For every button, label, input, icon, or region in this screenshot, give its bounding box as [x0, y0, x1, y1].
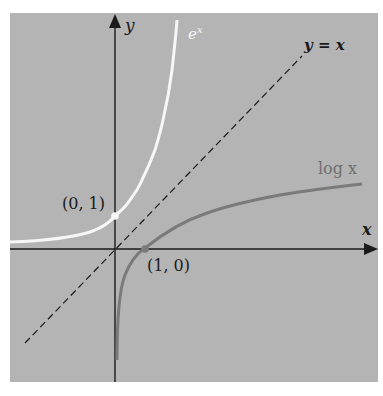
x-axis-label: x: [362, 222, 372, 238]
point-1-0: [141, 245, 149, 253]
point-0-1: [111, 212, 119, 220]
point-0-1-label: (0, 1): [62, 196, 105, 212]
log-label: log x: [318, 161, 357, 177]
plot-svg: [0, 0, 383, 396]
x-axis-arrow-icon: [364, 243, 378, 255]
exp-label-sup: x: [197, 24, 203, 35]
identity-label: y = x: [304, 38, 345, 53]
exp-label: ex: [188, 25, 203, 42]
exp-label-base: e: [188, 25, 197, 43]
y-axis-arrow-icon: [109, 14, 121, 28]
point-1-0-label: (1, 0): [147, 258, 190, 274]
y-axis-label: y: [125, 17, 135, 34]
